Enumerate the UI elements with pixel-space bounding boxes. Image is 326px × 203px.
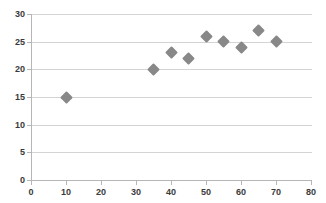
x-axis-tick-mark <box>136 181 137 185</box>
y-axis-tick-labels: 051015202530 <box>0 0 25 203</box>
x-axis-tick-mark <box>31 181 32 185</box>
x-axis-tick-label: 20 <box>89 188 113 197</box>
x-axis-tick-label: 10 <box>54 188 78 197</box>
x-axis-tick-mark <box>311 181 312 185</box>
x-axis-tick-mark <box>276 181 277 185</box>
x-axis-tick-mark <box>241 181 242 185</box>
x-axis-tick-mark <box>101 181 102 185</box>
y-axis-tick-label: 5 <box>3 148 25 157</box>
y-axis-tick-label: 15 <box>3 93 25 102</box>
y-axis-tick-label: 0 <box>3 176 25 185</box>
scatter-chart: 051015202530 01020304050607080 <box>0 0 326 203</box>
y-axis-tick-label: 25 <box>3 38 25 47</box>
x-axis-tick-label: 0 <box>19 188 43 197</box>
x-axis-tick-mark <box>171 181 172 185</box>
x-axis-tick-label: 70 <box>264 188 288 197</box>
y-axis-tick-label: 20 <box>3 65 25 74</box>
x-axis-tick-label: 50 <box>194 188 218 197</box>
plot-area <box>31 14 311 180</box>
x-axis-tick-mark <box>206 181 207 185</box>
x-axis-tick-label: 80 <box>299 188 323 197</box>
x-axis-tick-label: 60 <box>229 188 253 197</box>
x-axis-tick-label: 40 <box>159 188 183 197</box>
x-axis-tick-label: 30 <box>124 188 148 197</box>
y-axis-tick-label: 30 <box>3 10 25 19</box>
y-axis-tick-label: 10 <box>3 121 25 130</box>
x-axis-tick-mark <box>66 181 67 185</box>
